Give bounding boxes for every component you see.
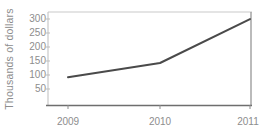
line-chart: Thousands of dollars 300 250 200 150 100… (0, 0, 272, 135)
plot-area (0, 0, 272, 135)
x-tick-label: 2011 (237, 117, 259, 127)
x-tick-label: 2010 (149, 117, 171, 127)
x-tick-label: 2009 (57, 117, 79, 127)
data-line-series (68, 19, 250, 77)
